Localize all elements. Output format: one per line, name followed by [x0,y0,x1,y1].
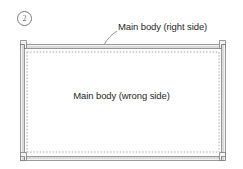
edge-band-top [21,45,226,49]
center-label-wrong-side: Main body (wrong side) [0,90,243,101]
main-body-interior [24,48,222,157]
edge-band-left [21,45,25,161]
illustration-canvas: 2 [0,0,243,169]
edge-band-right [222,45,226,161]
callout-leader-line [104,31,117,45]
callout-label-right-side: Main body (right side) [118,21,207,32]
edge-band-bottom [21,157,226,161]
